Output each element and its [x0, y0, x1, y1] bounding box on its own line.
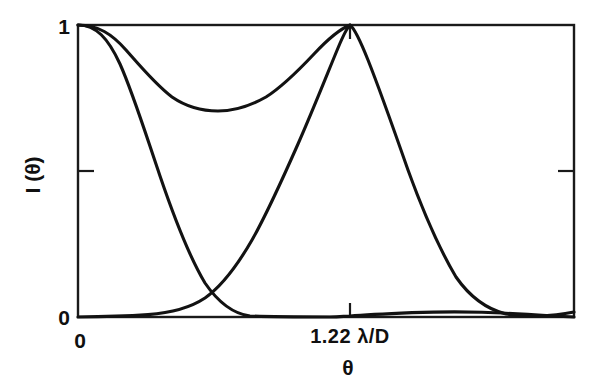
y-axis-label: I (θ) [21, 156, 44, 193]
x-tick-label-0: 0 [74, 329, 86, 352]
x-tick-label-1-22-lambda-d: 1.22 λ/D [310, 325, 390, 347]
curve-airy-source-1 [78, 25, 574, 317]
y-axis-label-text: I (θ) [21, 156, 44, 193]
plot-border [78, 25, 574, 317]
y-tick-label-0: 0 [58, 306, 70, 329]
plot-frame [78, 25, 574, 317]
rayleigh-criterion-figure: I (θ) 1 0 0 1.22 λ/D θ [0, 0, 595, 382]
curve-airy-source-2 [78, 25, 574, 317]
y-tick-label-1: 1 [58, 15, 70, 38]
curve-combined-intensity [78, 25, 350, 111]
x-axis-label-text: θ [342, 356, 353, 379]
